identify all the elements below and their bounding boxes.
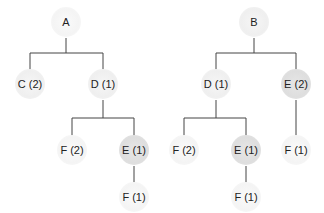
tree-node: F (1) [119, 182, 149, 212]
tree-node: E (1) [231, 135, 261, 165]
tree-node: D (1) [201, 69, 231, 99]
tree-node: B [239, 7, 269, 37]
tree-node: C (2) [15, 69, 45, 99]
tree-node: F (2) [169, 135, 199, 165]
tree-node: F (2) [57, 135, 87, 165]
tree-edges [0, 0, 324, 213]
tree-node: A [51, 7, 81, 37]
tree-node: E (1) [119, 135, 149, 165]
tree-node: E (2) [281, 69, 311, 99]
tree-node: D (1) [88, 69, 118, 99]
tree-node: F (1) [281, 135, 311, 165]
tree-node: F (1) [231, 182, 261, 212]
